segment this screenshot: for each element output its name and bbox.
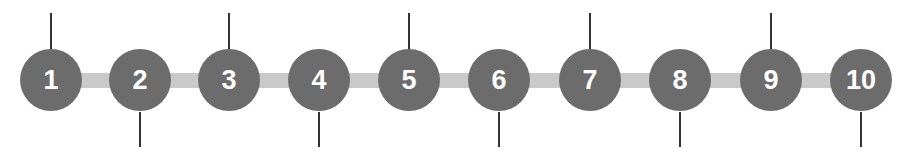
- timeline-node: 10: [830, 49, 892, 111]
- timeline-tick-below: [139, 112, 141, 147]
- timeline-tick-below: [318, 112, 320, 147]
- timeline-tick-below: [860, 112, 862, 147]
- timeline-tick-above: [408, 13, 410, 49]
- timeline-node: 5: [378, 49, 440, 111]
- timeline-tick-below: [498, 112, 500, 147]
- timeline-node: 4: [288, 49, 350, 111]
- timeline-tick-below: [679, 112, 681, 147]
- timeline-node: 2: [109, 49, 171, 111]
- timeline-node: 6: [468, 49, 530, 111]
- timeline-node: 3: [198, 49, 260, 111]
- timeline-node: 7: [559, 49, 621, 111]
- timeline-tick-above: [228, 13, 230, 49]
- timeline-node: 1: [20, 49, 82, 111]
- timeline-tick-above: [770, 13, 772, 49]
- timeline-tick-above: [50, 13, 52, 49]
- timeline-node: 8: [649, 49, 711, 111]
- timeline-node: 9: [740, 49, 802, 111]
- timeline-tick-above: [589, 13, 591, 49]
